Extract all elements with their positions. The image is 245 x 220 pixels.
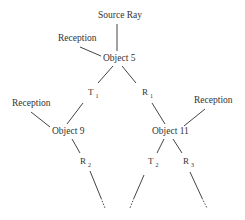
r3-label: R3 bbox=[183, 157, 194, 168]
r3-letter: R bbox=[183, 156, 189, 166]
reception-label-right: Reception bbox=[194, 96, 233, 106]
t1-subscript: 1 bbox=[96, 93, 99, 99]
t2-subscript: 2 bbox=[156, 162, 159, 168]
t1-label: T1 bbox=[88, 88, 99, 99]
edge-t2-continuation bbox=[134, 175, 144, 198]
object-5-node: Object 5 bbox=[103, 54, 135, 64]
reception-label-left: Reception bbox=[12, 99, 51, 109]
diagram-edges bbox=[0, 0, 245, 220]
edge-object5-to-r1 bbox=[122, 66, 136, 83]
edge-reception-to-object9 bbox=[31, 112, 50, 127]
ray-tree-diagram: Source Ray Reception Object 5 T1 R1 Rece… bbox=[0, 0, 245, 220]
edge-r2-continuation bbox=[90, 171, 101, 198]
t1-letter: T bbox=[88, 87, 94, 97]
r2-letter: R bbox=[80, 156, 86, 166]
source-ray-label: Source Ray bbox=[98, 11, 142, 21]
edge-object11-to-r3 bbox=[173, 139, 182, 153]
edge-object11-to-t2 bbox=[157, 139, 164, 153]
edge-object9-to-r2 bbox=[72, 139, 80, 153]
edge-reception-to-object11 bbox=[184, 109, 205, 126]
edge-object5-to-t1 bbox=[98, 66, 113, 83]
object-11-node: Object 11 bbox=[152, 127, 189, 137]
edge-r3-continuation bbox=[190, 172, 202, 198]
r2-subscript: 2 bbox=[88, 162, 91, 168]
edge-t1-to-object9 bbox=[67, 103, 83, 124]
r1-label: R1 bbox=[142, 88, 153, 99]
r3-subscript: 3 bbox=[191, 162, 194, 168]
t2-letter: T bbox=[148, 156, 154, 166]
edge-t2-continuation-dashed bbox=[130, 198, 134, 208]
r1-subscript: 1 bbox=[150, 93, 153, 99]
edge-r3-continuation-dashed bbox=[202, 198, 207, 208]
edge-reception-to-object5 bbox=[80, 47, 101, 56]
t2-label: T2 bbox=[148, 157, 159, 168]
r2-label: R2 bbox=[80, 157, 91, 168]
r1-letter: R bbox=[142, 87, 148, 97]
edge-r1-to-object11 bbox=[152, 103, 165, 124]
reception-label-top: Reception bbox=[58, 34, 97, 44]
object-9-node: Object 9 bbox=[52, 127, 84, 137]
edge-r2-continuation-dashed bbox=[101, 198, 105, 208]
